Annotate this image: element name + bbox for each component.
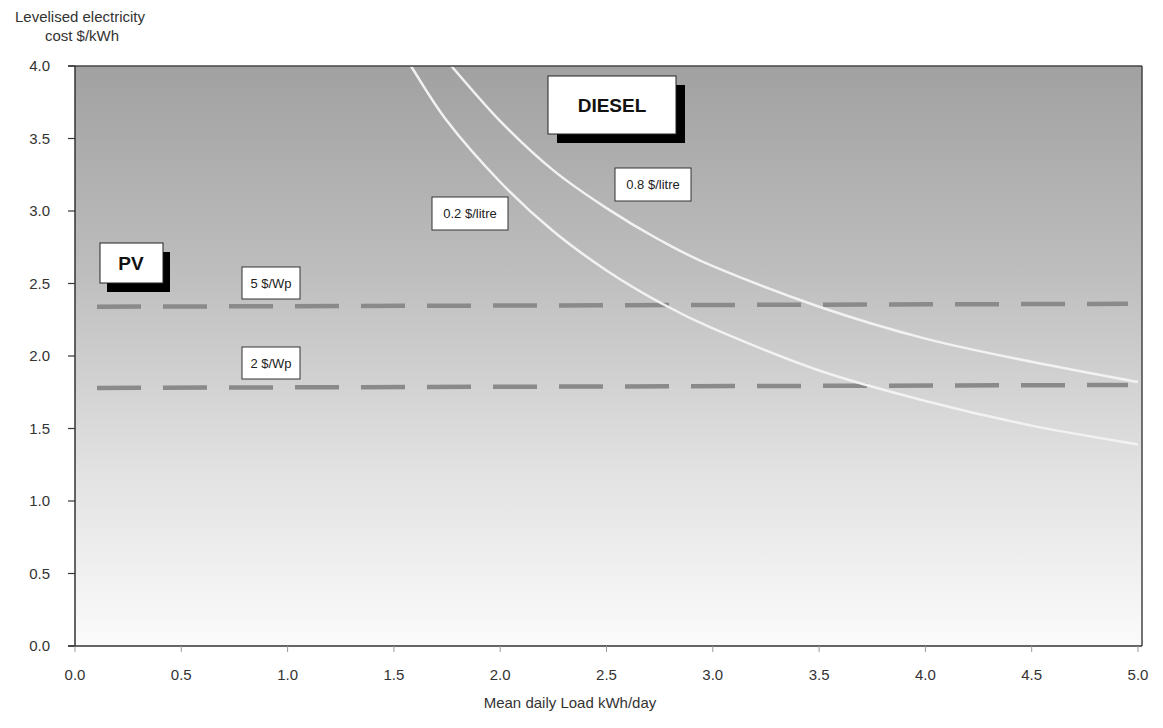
y-axis-title-line1: Levelised electricity [15, 8, 146, 25]
x-tick-label: 1.0 [277, 666, 298, 683]
y-tick-label: 2.0 [29, 347, 50, 364]
x-tick-label: 0.0 [65, 666, 86, 683]
y-tick-label: 1.0 [29, 492, 50, 509]
plot-area [75, 66, 1142, 646]
annotation-2-wp-text: 2 $/Wp [250, 356, 291, 371]
y-tick-label: 3.5 [29, 130, 50, 147]
annotation-0-2-litre-text: 0.2 $/litre [443, 206, 496, 221]
x-tick-label: 5.0 [1128, 666, 1149, 683]
x-tick-label: 4.5 [1021, 666, 1042, 683]
diesel-label-text: DIESEL [578, 95, 647, 116]
annotation-0-8-litre: 0.8 $/litre [615, 168, 691, 201]
x-axis-title: Mean daily Load kWh/day [484, 694, 657, 711]
y-tick-label: 0.0 [29, 637, 50, 654]
chart: Levelised electricity cost $/kWh 0.00.51… [0, 0, 1163, 728]
annotation-0-8-litre-text: 0.8 $/litre [626, 177, 679, 192]
x-tick-label: 4.0 [915, 666, 936, 683]
x-tick-label: 3.0 [702, 666, 723, 683]
x-tick-label: 2.5 [596, 666, 617, 683]
pv-group-label: PV [100, 243, 170, 292]
annotation-2-wp: 2 $/Wp [242, 347, 300, 379]
y-tick-label: 2.5 [29, 275, 50, 292]
diesel-group-label: DIESEL [548, 76, 685, 143]
annotation-5-wp-text: 5 $/Wp [250, 276, 291, 291]
x-tick-label: 3.5 [809, 666, 830, 683]
annotation-0-2-litre: 0.2 $/litre [432, 197, 508, 230]
annotation-5-wp: 5 $/Wp [242, 267, 300, 299]
y-tick-label: 3.0 [29, 202, 50, 219]
y-axis-title-line2: cost $/kWh [45, 27, 119, 44]
y-tick-label: 1.5 [29, 420, 50, 437]
x-tick-label: 2.0 [490, 666, 511, 683]
x-tick-label: 1.5 [383, 666, 404, 683]
y-tick-label: 4.0 [29, 57, 50, 74]
y-axis-ticks: 0.00.51.01.52.02.53.03.54.0 [29, 57, 75, 654]
y-tick-label: 0.5 [29, 565, 50, 582]
x-axis-ticks: 0.00.51.01.52.02.53.03.54.04.55.0 [65, 646, 1149, 683]
pv-label-text: PV [118, 253, 144, 274]
x-tick-label: 0.5 [171, 666, 192, 683]
